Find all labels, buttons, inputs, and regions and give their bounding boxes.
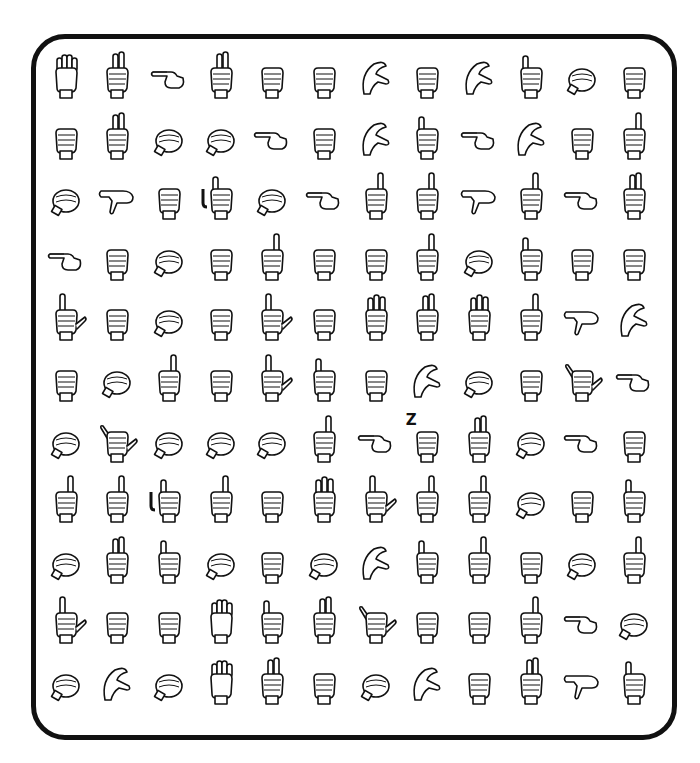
sign-cell <box>247 230 299 291</box>
hand-sign-a-icon <box>97 601 137 645</box>
hand-sign-h-icon <box>304 177 344 221</box>
hand-sign-a-icon <box>304 298 344 342</box>
sign-cell <box>247 593 299 654</box>
hand-sign-a-icon <box>356 238 396 282</box>
hand-sign-o-icon <box>46 177 86 221</box>
hand-sign-a-icon <box>304 662 344 706</box>
hand-sign-g-icon <box>356 420 396 464</box>
hand-sign-u-icon <box>459 420 499 464</box>
sign-cell <box>247 109 299 170</box>
sign-cell <box>247 411 299 472</box>
hand-sign-a-icon <box>562 238 602 282</box>
hand-sign-a-icon <box>201 298 241 342</box>
sign-cell <box>350 230 402 291</box>
hand-sign-l-icon <box>46 601 86 645</box>
sign-cell <box>298 351 350 412</box>
hand-sign-d-icon <box>356 177 396 221</box>
sign-grid <box>40 48 660 714</box>
hand-sign-a-icon <box>252 480 292 524</box>
sign-cell <box>350 472 402 533</box>
hand-sign-l-icon <box>356 480 396 524</box>
hand-sign-v-icon <box>97 117 137 161</box>
hand-sign-e-icon <box>252 541 292 585</box>
sign-cell <box>505 653 557 714</box>
sign-cell <box>505 109 557 170</box>
sign-cell <box>40 472 92 533</box>
hand-sign-x-icon <box>149 359 189 403</box>
hand-sign-h-icon <box>562 177 602 221</box>
hand-sign-o-icon <box>201 541 241 585</box>
sign-cell <box>195 169 247 230</box>
hand-sign-i-icon <box>407 541 447 585</box>
hand-sign-e-icon <box>562 480 602 524</box>
sign-cell <box>143 48 195 109</box>
hand-sign-u-icon <box>97 541 137 585</box>
hand-sign-a-icon <box>46 359 86 403</box>
sign-cell <box>402 653 454 714</box>
sign-cell <box>40 169 92 230</box>
hand-sign-p-icon <box>562 662 602 706</box>
hand-sign-i-icon <box>149 541 189 585</box>
sign-cell <box>505 48 557 109</box>
hand-sign-o-icon <box>562 541 602 585</box>
hand-sign-a-icon <box>614 238 654 282</box>
sign-cell <box>195 351 247 412</box>
sign-cell <box>92 653 144 714</box>
sign-cell <box>608 290 660 351</box>
hand-sign-o-icon <box>149 238 189 282</box>
sign-cell <box>557 48 609 109</box>
sign-cell <box>505 230 557 291</box>
hand-sign-o-icon <box>149 662 189 706</box>
sign-cell <box>608 593 660 654</box>
sign-cell <box>453 653 505 714</box>
hand-sign-c-icon <box>407 359 447 403</box>
hand-sign-d-icon <box>97 480 137 524</box>
hand-sign-g-icon <box>46 238 86 282</box>
hand-sign-z-icon <box>407 480 447 524</box>
sign-cell <box>505 411 557 472</box>
hand-sign-b-icon <box>201 601 241 645</box>
sign-cell <box>143 411 195 472</box>
hand-sign-d-icon <box>201 480 241 524</box>
sign-cell <box>608 411 660 472</box>
hand-sign-o-icon <box>511 480 551 524</box>
sign-cell <box>608 109 660 170</box>
hand-sign-h-icon <box>459 117 499 161</box>
sign-cell <box>505 351 557 412</box>
sign-cell <box>402 169 454 230</box>
sign-cell <box>402 351 454 412</box>
hand-sign-o-icon <box>46 541 86 585</box>
hand-sign-e-icon <box>97 298 137 342</box>
sign-cell <box>195 653 247 714</box>
sign-cell <box>557 532 609 593</box>
sign-cell <box>195 411 247 472</box>
hand-sign-i-icon <box>304 359 344 403</box>
hand-sign-c-icon <box>614 298 654 342</box>
sign-cell <box>453 290 505 351</box>
hand-sign-a-icon <box>304 117 344 161</box>
sign-cell <box>453 169 505 230</box>
hand-sign-e-icon <box>97 238 137 282</box>
sign-cell <box>298 653 350 714</box>
hand-sign-y-icon <box>562 359 602 403</box>
hand-sign-s-icon <box>46 117 86 161</box>
hand-sign-i-icon <box>252 601 292 645</box>
hand-sign-e-icon <box>407 601 447 645</box>
hand-sign-c-icon <box>356 541 396 585</box>
sign-cell <box>557 109 609 170</box>
sign-cell <box>195 48 247 109</box>
hand-sign-d-icon <box>407 238 447 282</box>
hand-sign-d-icon <box>252 238 292 282</box>
sign-cell <box>557 653 609 714</box>
sign-cell <box>298 593 350 654</box>
sign-cell <box>350 351 402 412</box>
hand-sign-i-icon <box>511 56 551 100</box>
hand-sign-y-icon <box>356 601 396 645</box>
sign-cell <box>92 290 144 351</box>
hand-sign-i-icon <box>407 117 447 161</box>
sign-cell <box>92 109 144 170</box>
hand-sign-l-icon <box>252 298 292 342</box>
hand-sign-a-icon <box>149 601 189 645</box>
hand-sign-h-icon <box>252 117 292 161</box>
hand-sign-o-icon <box>304 541 344 585</box>
